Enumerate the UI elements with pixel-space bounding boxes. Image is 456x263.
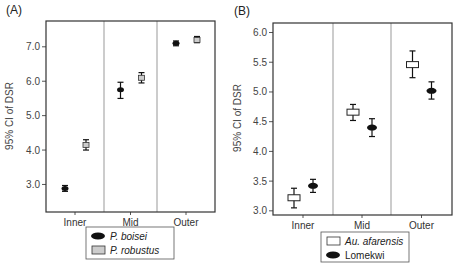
y-ticks-a: 3.04.05.06.07.0 — [26, 41, 46, 190]
legend-swatch-open — [327, 237, 340, 245]
marker-gray-square — [194, 37, 200, 42]
marker-gray-square — [139, 75, 145, 80]
legend-swatch-ellipse — [91, 233, 105, 240]
marker-filled-ellipse — [117, 87, 124, 92]
marker-open-rect — [347, 109, 359, 115]
marker-filled-ellipse — [308, 183, 318, 189]
y-tick-label: 4.5 — [253, 116, 267, 127]
marker-gray-square — [83, 142, 89, 147]
data-point — [367, 119, 377, 137]
y-tick-label: 3.0 — [26, 179, 40, 190]
marker-filled-ellipse — [367, 125, 377, 131]
panel-label-b: (B) — [234, 4, 250, 18]
x-category-label: Outer — [173, 217, 199, 228]
figure: (A) 95% CI of DSR 3.04.05.06.07.0 InnerM… — [0, 0, 456, 263]
marker-filled-ellipse — [427, 88, 437, 94]
y-tick-label: 6.0 — [253, 27, 267, 38]
data-point — [194, 36, 200, 42]
data-point — [427, 82, 437, 99]
legend-label: P. robustus — [110, 245, 159, 256]
x-category-label: Mid — [354, 220, 370, 231]
legend-swatch-ellipse — [326, 252, 340, 259]
legend-a: P. boiseiP. robustus — [86, 227, 174, 259]
legend-b: Au. afarensisLomekwi — [321, 232, 409, 262]
panel-a: (A) 95% CI of DSR 3.04.05.06.07.0 InnerM… — [4, 3, 215, 259]
data-point — [288, 188, 300, 208]
y-tick-label: 5.0 — [253, 86, 267, 97]
data-point — [407, 51, 419, 78]
legend-label: Au. afarensis — [344, 236, 403, 247]
y-tick-label: 4.0 — [26, 145, 40, 156]
marker-open-rect — [288, 195, 300, 201]
y-ticks-b: 3.03.54.04.55.05.56.0 — [253, 27, 273, 216]
y-axis-title-a: 95% CI of DSR — [4, 82, 15, 150]
y-tick-label: 7.0 — [26, 41, 40, 52]
data-point — [347, 104, 359, 120]
plot-frame-b — [273, 23, 452, 215]
x-category-label: Outer — [409, 220, 435, 231]
data-point — [62, 186, 69, 192]
x-categories-a: InnerMidOuter — [64, 212, 200, 228]
y-tick-label: 3.5 — [253, 176, 267, 187]
marker-open-rect — [407, 62, 419, 68]
y-tick-label: 5.5 — [253, 57, 267, 68]
data-marks-a — [62, 21, 201, 212]
data-point — [308, 179, 318, 192]
x-category-label: Inner — [64, 217, 87, 228]
y-tick-label: 6.0 — [26, 76, 40, 87]
data-marks-b — [288, 23, 437, 215]
panel-label-a: (A) — [6, 3, 22, 17]
y-tick-label: 3.0 — [253, 205, 267, 216]
x-category-label: Inner — [292, 220, 315, 231]
legend-label: P. boisei — [110, 231, 148, 242]
data-point — [117, 82, 124, 98]
data-point — [173, 41, 180, 46]
marker-filled-ellipse — [62, 186, 69, 191]
data-point — [139, 73, 145, 83]
x-category-label: Mid — [122, 217, 138, 228]
panel-b: (B) 95% CI of DSR 3.03.54.04.55.05.56.0 … — [232, 4, 452, 262]
y-tick-label: 4.0 — [253, 146, 267, 157]
data-point — [83, 140, 89, 150]
y-tick-label: 5.0 — [26, 110, 40, 121]
legend-label: Lomekwi — [345, 250, 384, 261]
plot-frame-a — [46, 21, 215, 212]
legend-swatch-square — [92, 246, 105, 254]
y-axis-title-b: 95% CI of DSR — [232, 84, 243, 152]
x-categories-b: InnerMidOuter — [292, 215, 435, 231]
marker-filled-ellipse — [173, 41, 180, 46]
